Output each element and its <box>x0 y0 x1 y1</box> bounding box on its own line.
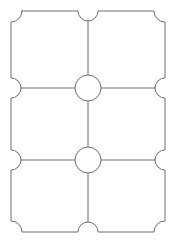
intersection-circle-1 <box>75 75 101 101</box>
die-cut-template-drawing <box>0 0 176 243</box>
intersection-circle-2 <box>75 147 101 173</box>
